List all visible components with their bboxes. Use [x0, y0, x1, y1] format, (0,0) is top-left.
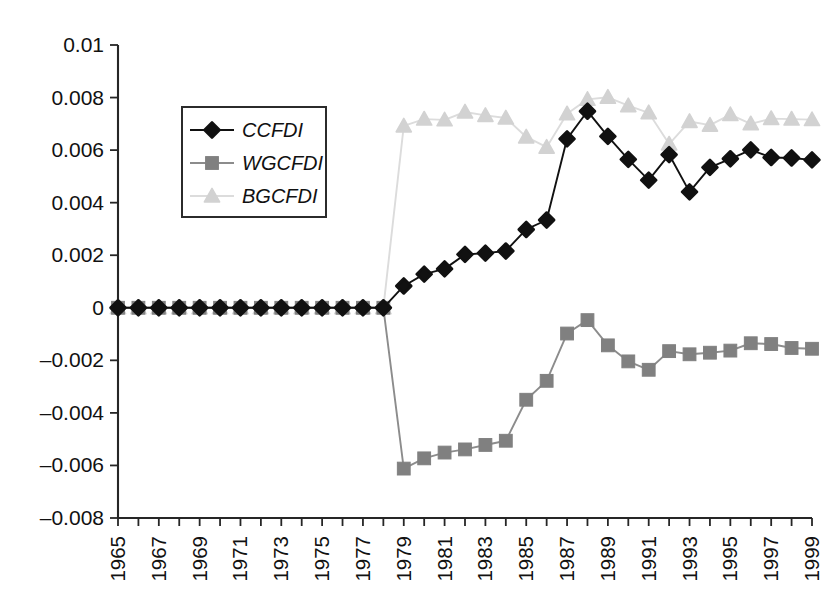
x-tick-label: 1995 [718, 536, 741, 582]
data-point-marker [438, 446, 451, 459]
legend-label: CCFDI [242, 119, 304, 141]
legend-label: WGCFDI [242, 152, 324, 174]
x-tick-label: 1993 [678, 536, 701, 582]
data-point-marker [479, 439, 492, 452]
y-tick-label: 0.002 [51, 243, 104, 266]
y-tick-label: 0.006 [51, 138, 104, 161]
x-tick-label: 1979 [392, 536, 415, 582]
x-tick-label: 1965 [106, 536, 129, 582]
y-tick-label: 0 [92, 296, 104, 319]
data-point-marker [683, 348, 696, 361]
data-point-marker [642, 363, 655, 376]
data-point-marker [206, 157, 219, 170]
x-tick-label: 1981 [433, 536, 456, 582]
chart-legend: CCFDIWGCFDIBGCFDI [182, 107, 326, 217]
data-point-marker [520, 393, 533, 406]
x-tick-label: 1985 [514, 536, 537, 582]
x-tick-label: 1987 [555, 536, 578, 582]
y-tick-label: –0.006 [40, 453, 104, 476]
data-point-marker [561, 327, 574, 340]
y-tick-label: –0.002 [40, 348, 104, 371]
data-point-marker [785, 342, 798, 355]
x-tick-label: 1999 [800, 536, 823, 582]
x-tick-label: 1973 [269, 536, 292, 582]
data-point-marker [418, 452, 431, 465]
data-point-marker [765, 338, 778, 351]
data-point-marker [540, 374, 553, 387]
legend-label: BGCFDI [242, 185, 318, 207]
x-tick-label: 1997 [759, 536, 782, 582]
x-tick-label: 1977 [351, 536, 374, 582]
data-point-marker [622, 355, 635, 368]
x-tick-label: 1967 [147, 536, 170, 582]
data-point-marker [499, 434, 512, 447]
data-point-marker [744, 337, 757, 350]
x-tick-label: 1971 [228, 536, 251, 582]
data-point-marker [459, 443, 472, 456]
data-point-marker [397, 462, 410, 475]
x-tick-label: 1975 [310, 536, 333, 582]
y-tick-label: –0.004 [40, 401, 105, 424]
chart-page: 0.010.0080.0060.0040.0020–0.002–0.004–0.… [0, 0, 830, 612]
y-tick-label: –0.008 [40, 506, 104, 529]
x-tick-label: 1983 [473, 536, 496, 582]
data-point-marker [806, 342, 819, 355]
data-point-marker [704, 346, 717, 359]
y-tick-label: 0.004 [51, 191, 104, 214]
line-chart: 0.010.0080.0060.0040.0020–0.002–0.004–0.… [0, 0, 830, 612]
data-point-marker [724, 344, 737, 357]
data-point-marker [663, 345, 676, 358]
x-tick-label: 1991 [637, 536, 660, 582]
data-point-marker [581, 314, 594, 327]
y-tick-label: 0.01 [63, 33, 104, 56]
x-tick-label: 1969 [188, 536, 211, 582]
x-tick-label: 1989 [596, 536, 619, 582]
data-point-marker [601, 339, 614, 352]
y-tick-label: 0.008 [51, 86, 104, 109]
